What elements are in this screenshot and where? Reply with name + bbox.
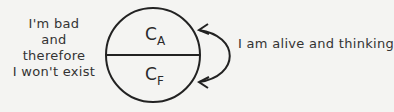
left-line-3: I won't exist [8,64,100,80]
left-annotation: I'm bad and therefore I won't exist [8,16,100,80]
top-symbol: CA [145,24,165,48]
arrowhead-bottom-icon [199,77,209,88]
arrowhead-top-icon [199,24,209,34]
left-line-2: and therefore [8,32,100,64]
bottom-symbol: CF [145,64,164,88]
right-annotation: I am alive and thinking [238,36,394,52]
left-line-1: I'm bad [8,16,100,32]
loop-arrow [199,30,230,82]
